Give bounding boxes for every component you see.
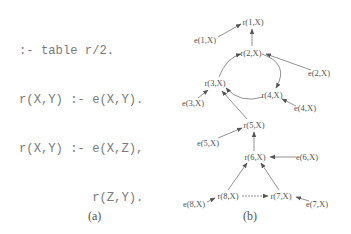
dependency-graph: r(1,X) e(1,X) r(2,X) e(2,X) r(3,X) e(3,X…	[0, 0, 351, 234]
edge-arrow	[226, 88, 263, 99]
node-r3: r(3,X)	[204, 78, 225, 88]
node-e6: e(6,X)	[296, 152, 318, 162]
edge-arrow	[261, 163, 279, 190]
node-e2: e(2,X)	[308, 68, 330, 78]
edge-arrow	[228, 163, 247, 190]
node-r8: r(8,X)	[217, 191, 238, 201]
edge-arrow	[266, 54, 311, 70]
node-r1: r(1,X)	[242, 17, 263, 27]
node-e1: e(1,X)	[194, 35, 216, 45]
node-r4: r(4,X)	[261, 90, 282, 100]
edge-arrow	[219, 54, 241, 77]
edge-arrow	[198, 90, 208, 98]
edge-arrow	[207, 198, 215, 202]
edge-arrow	[218, 128, 242, 138]
edge-arrow	[218, 24, 241, 37]
node-e7: e(7,X)	[306, 199, 328, 209]
node-r7: r(7,X)	[270, 191, 291, 201]
node-e3: e(3,X)	[182, 98, 204, 108]
edge-arrow	[262, 54, 281, 88]
graph-nodes: r(1,X) e(1,X) r(2,X) e(2,X) r(3,X) e(3,X…	[182, 17, 330, 209]
node-r2: r(2,X)	[240, 48, 261, 58]
node-r5: r(5,X)	[243, 120, 264, 130]
node-e5: e(5,X)	[197, 138, 219, 148]
node-e8: e(8,X)	[183, 199, 205, 209]
node-e4: e(4,X)	[294, 103, 316, 113]
node-r6: r(6,X)	[244, 152, 265, 162]
